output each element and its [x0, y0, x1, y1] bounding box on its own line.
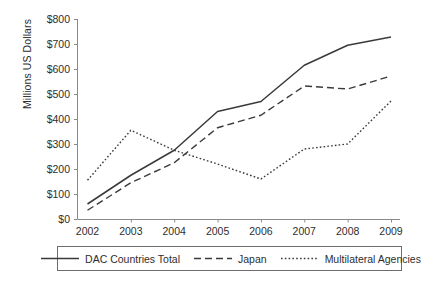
- legend-item[interactable]: Japan: [193, 247, 267, 270]
- legend-line-swatch: [40, 253, 80, 264]
- x-axis-tick-label: 2008: [328, 225, 368, 237]
- x-axis-tick-label: 2002: [68, 225, 108, 237]
- x-axis-tick-label: 2007: [284, 225, 324, 237]
- series-line-multilateral-agencies: [88, 101, 392, 180]
- legend-item-label: DAC Countries Total: [80, 253, 180, 265]
- x-axis-tick-labels: 20022003200420052006200720082009: [0, 225, 420, 239]
- legend-item-label: Japan: [233, 253, 267, 265]
- x-axis-tick-label: 2005: [198, 225, 238, 237]
- series-line-japan: [88, 76, 392, 210]
- y-axis-ticks: [74, 20, 78, 220]
- legend-line-swatch: [193, 253, 233, 264]
- series-line-dac-countries-total: [88, 37, 392, 204]
- data-series-group: [88, 37, 392, 210]
- legend-item[interactable]: Multilateral Agencies: [280, 247, 421, 270]
- chart-legend: DAC Countries TotalJapanMultilateral Age…: [57, 246, 402, 271]
- x-axis-tick-label: 2003: [111, 225, 151, 237]
- x-axis-tick-label: 2004: [154, 225, 194, 237]
- x-axis-tick-label: 2006: [241, 225, 281, 237]
- x-axis-tick-label: 2009: [371, 225, 411, 237]
- legend-item[interactable]: DAC Countries Total: [40, 247, 180, 270]
- legend-line-swatch: [280, 253, 320, 264]
- legend-item-label: Multilateral Agencies: [320, 253, 421, 265]
